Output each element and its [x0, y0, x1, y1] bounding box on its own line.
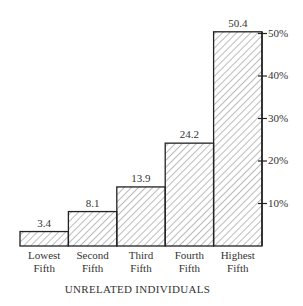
bar-3: [117, 187, 165, 246]
bar-value-label: 8.1: [68, 197, 116, 209]
category-label: FourthFifth: [165, 249, 213, 275]
bar-4: [165, 143, 213, 246]
category-label: LowestFifth: [20, 249, 68, 275]
y-tick-label: 40%: [268, 69, 288, 81]
y-tick-label: 30%: [268, 112, 288, 124]
bar-5: [214, 32, 262, 246]
y-tick-label: 20%: [268, 154, 288, 166]
bar-value-label: 50.4: [214, 17, 262, 29]
chart-title: UNRELATED INDIVIDUALS: [0, 283, 275, 295]
category-label: ThirdFifth: [117, 249, 165, 275]
y-tick-label: 50%: [268, 27, 288, 39]
bar-value-label: 24.2: [165, 128, 213, 140]
category-label: SecondFifth: [68, 249, 116, 275]
y-tick-label: 10%: [268, 197, 288, 209]
bar-value-label: 13.9: [117, 172, 165, 184]
bar-2: [68, 212, 116, 246]
bar-1: [20, 232, 68, 246]
category-label: HighestFifth: [214, 249, 262, 275]
bar-value-label: 3.4: [20, 217, 68, 229]
